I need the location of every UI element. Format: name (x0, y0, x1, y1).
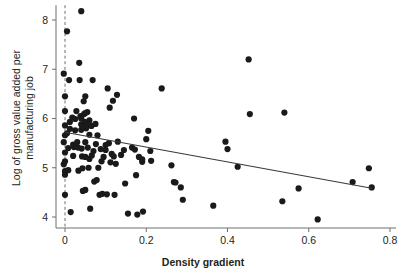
y-tick-label: 7 (42, 63, 48, 75)
scatter-point (72, 116, 78, 122)
scatter-point (295, 185, 301, 191)
scatter-point (78, 8, 84, 14)
x-tick-label: 0.6 (301, 234, 316, 246)
scatter-point (110, 98, 116, 104)
scatter-point (62, 93, 68, 99)
scatter-point (82, 139, 88, 145)
scatter-point (172, 179, 178, 185)
scatter-point (70, 153, 76, 159)
scatter-point (247, 111, 253, 117)
x-tick-label: 0.2 (139, 234, 154, 246)
x-tick-label: 0.4 (220, 234, 235, 246)
scatter-point (140, 208, 146, 214)
y-axis-ticks: 45678 (42, 14, 56, 223)
scatter-point (72, 127, 78, 133)
scatter-point (103, 147, 109, 153)
scatter-point (92, 121, 98, 127)
scatter-point (121, 147, 127, 153)
scatter-point (79, 145, 85, 151)
scatter-point (315, 216, 321, 222)
scatter-point (85, 165, 91, 171)
scatter-point (122, 180, 128, 186)
scatter-point (134, 211, 140, 217)
scatter-point (62, 108, 68, 114)
x-axis-title: Density gradient (162, 256, 245, 268)
scatter-point (143, 136, 149, 142)
scatter-point (222, 139, 228, 145)
scatter-point (281, 109, 287, 115)
scatter-point (131, 115, 137, 121)
scatter-point (366, 165, 372, 171)
scatter-point (62, 158, 68, 164)
scatter-points-group (61, 8, 375, 223)
scatter-point (168, 162, 174, 168)
scatter-point (113, 161, 119, 167)
scatter-point (87, 206, 93, 212)
y-axis-title-line1: Log of gross value added per (10, 49, 22, 186)
chart-canvas: 45678 00.20.40.60.8 Density gradient Log… (0, 0, 407, 273)
scatter-point (133, 172, 139, 178)
scatter-point (94, 177, 100, 183)
scatter-point (180, 197, 186, 203)
scatter-plot-figure: 45678 00.20.40.60.8 Density gradient Log… (0, 0, 407, 273)
scatter-point (104, 191, 110, 197)
scatter-point (159, 85, 165, 91)
scatter-point (90, 148, 96, 154)
scatter-point (111, 192, 117, 198)
scatter-point (67, 126, 73, 132)
scatter-point (85, 144, 91, 150)
scatter-point (61, 139, 67, 145)
scatter-point (65, 167, 71, 173)
scatter-point (74, 139, 80, 145)
scatter-point (246, 56, 252, 62)
scatter-point (84, 109, 90, 115)
scatter-point (95, 165, 101, 171)
scatter-point (86, 117, 92, 123)
x-axis-ticks: 00.20.40.60.8 (62, 228, 397, 246)
scatter-point (111, 153, 117, 159)
scatter-point (147, 148, 153, 154)
scatter-point (100, 154, 106, 160)
scatter-point (145, 128, 151, 134)
scatter-point (148, 158, 154, 164)
scatter-point (125, 210, 131, 216)
scatter-point (132, 146, 138, 152)
scatter-point (68, 209, 74, 215)
scatter-point (224, 146, 230, 152)
scatter-point (76, 60, 82, 66)
scatter-point (61, 71, 67, 77)
scatter-point (77, 77, 83, 83)
scatter-point (64, 28, 70, 34)
scatter-point (114, 92, 120, 98)
scatter-point (210, 203, 216, 209)
y-axis-title-line2: manufacturing job (23, 76, 35, 160)
scatter-point (79, 165, 85, 171)
x-tick-label: 0 (62, 234, 68, 246)
scatter-point (139, 156, 145, 162)
y-tick-label: 6 (42, 112, 48, 124)
scatter-point (178, 184, 184, 190)
scatter-point (107, 159, 113, 165)
scatter-point (82, 93, 88, 99)
scatter-point (279, 198, 285, 204)
y-tick-label: 4 (42, 211, 48, 223)
y-tick-label: 8 (42, 14, 48, 26)
scatter-point (105, 85, 111, 91)
scatter-point (66, 77, 72, 83)
scatter-point (107, 105, 113, 111)
scatter-point (73, 108, 79, 114)
y-tick-label: 5 (42, 162, 48, 174)
scatter-point (62, 192, 68, 198)
scatter-point (82, 187, 88, 193)
x-tick-label: 0.8 (383, 234, 398, 246)
scatter-point (90, 77, 96, 83)
scatter-point (93, 141, 99, 147)
